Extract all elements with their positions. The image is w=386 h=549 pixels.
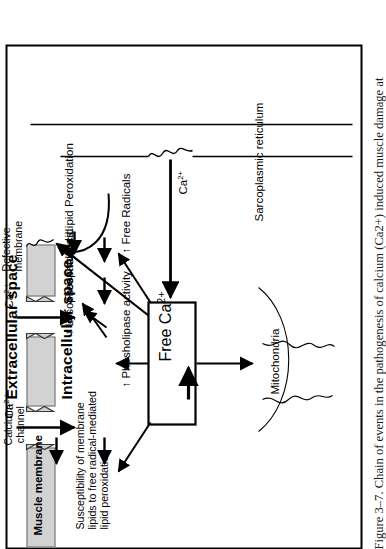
sarcoplasmic-reticulum-lines: [30, 124, 352, 156]
label-susceptibility: Susceptibility of membrane lipids to fre…: [74, 391, 110, 529]
arrow-phospholipase-to-free-fatty-acid: [84, 311, 106, 327]
label-free-calcium: Free Ca2+: [155, 291, 174, 361]
defective-membrane-pore: [26, 239, 53, 246]
membrane-jagged-edges: [26, 296, 53, 449]
figure-caption-text: Figure 3–7. Chain of events in the patho…: [371, 77, 385, 549]
label-mitochondria: Mitochondria: [268, 328, 281, 394]
label-calcium-extracellular-2: Ca2 +: [2, 283, 16, 308]
figure-vector-layer: [0, 44, 357, 549]
arrow-to-susceptibility: [118, 422, 150, 471]
label-lipid-peroxidation: ↑ Lipid Peroxidation: [62, 143, 75, 243]
label-phospholipase-activity: ↑ Phosholipase activity: [119, 271, 132, 387]
arrow-phospholipase-to-lysophospholipids: [82, 303, 106, 337]
label-defective-membrane: Defective membrane: [0, 220, 24, 271]
label-calcium-extracellular-1: Ca2 +: [2, 393, 16, 418]
label-muscle-membrane: Muscle membrane: [31, 435, 44, 535]
label-extracellular-space: Extracellular space: [2, 254, 19, 399]
label-calcium-sarcoplasmic: Ca2+: [176, 171, 190, 194]
label-free-radicals: ↑ Free Radicals: [119, 173, 132, 253]
figure-page: Extracellular space Intracellular space …: [0, 0, 386, 549]
label-sarcoplasmic-reticulum: Sarcoplasmic reticulum: [252, 102, 265, 221]
figure-caption: Figure 3–7. Chain of events in the patho…: [371, 0, 386, 549]
